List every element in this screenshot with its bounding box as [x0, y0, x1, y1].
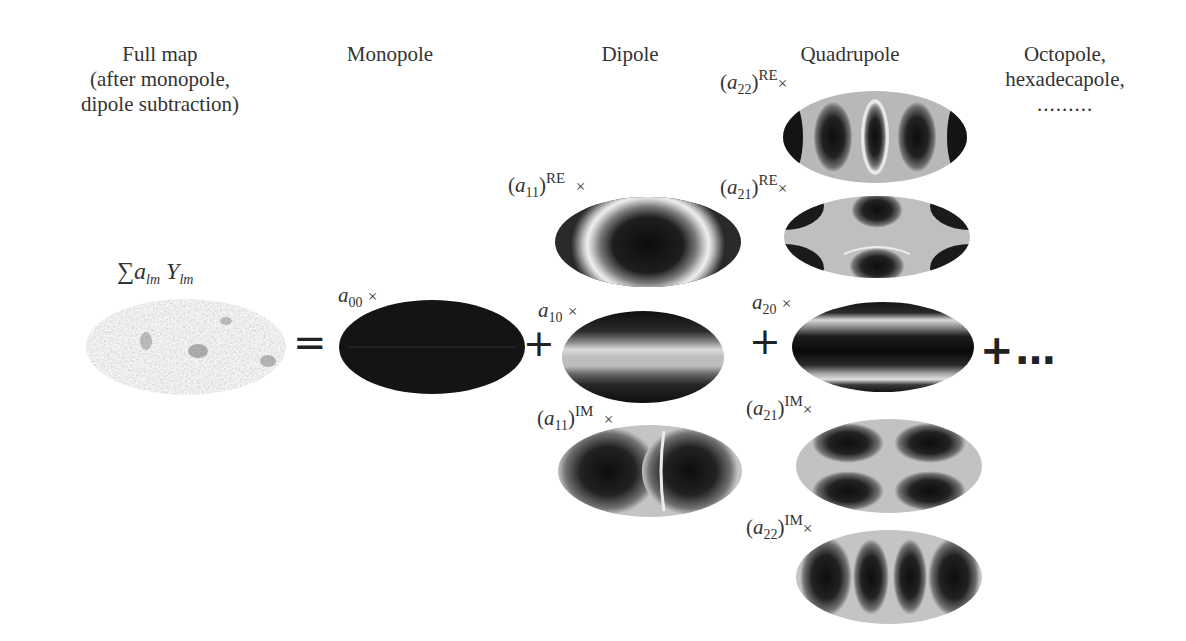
a-symbol: a — [753, 515, 764, 539]
paren: ) — [752, 70, 759, 94]
subscript: 20 — [763, 302, 777, 317]
heading-monopole: Monopole — [320, 42, 460, 67]
superscript: RE — [546, 170, 565, 186]
sum-label: ∑alm Ylm — [117, 258, 193, 288]
heading-line: hexadecapole, — [990, 67, 1140, 92]
heading-higher-multipoles: Octopole, hexadecapole, ......... — [990, 42, 1140, 117]
heading-dipole: Dipole — [570, 42, 690, 67]
subscript: 21 — [764, 408, 778, 423]
subscript: 22 — [738, 82, 752, 97]
paren: ) — [539, 173, 546, 197]
heading-full-map: Full map (after monopole, dipole subtrac… — [60, 42, 260, 117]
quadrupole-a21-im-map — [796, 419, 982, 513]
a-symbol: a — [538, 298, 549, 322]
quadrupole-a21-re-map — [784, 196, 970, 278]
subscript: lm — [179, 272, 193, 287]
paren: ( — [537, 406, 544, 430]
paren: ( — [746, 515, 753, 539]
subscript: 22 — [764, 527, 778, 542]
Y-symbol: Y — [166, 258, 179, 284]
dipole-a11-re-map — [555, 197, 741, 287]
plus-ellipsis: +… — [980, 330, 1058, 370]
times-sign: × — [576, 177, 586, 196]
heading-ellipsis: ......... — [990, 92, 1140, 117]
dipole-a11-im-map — [558, 425, 742, 517]
a-symbol: a — [134, 258, 146, 284]
subscript: 21 — [738, 187, 752, 202]
a-symbol: a — [727, 175, 738, 199]
paren: ( — [508, 173, 515, 197]
a-symbol: a — [752, 290, 763, 314]
plus-sign: + — [523, 324, 555, 362]
paren: ) — [752, 175, 759, 199]
a-symbol: a — [515, 173, 526, 197]
superscript: IM — [575, 403, 593, 419]
heading-line: dipole subtraction) — [60, 92, 260, 117]
subscript: 10 — [549, 310, 563, 325]
coef-a20: a20 × — [752, 290, 791, 318]
superscript: IM — [785, 512, 803, 528]
paren: ) — [778, 396, 785, 420]
plus-sign: + — [749, 322, 781, 360]
monopole-map — [339, 300, 525, 394]
a-symbol: a — [727, 70, 738, 94]
equals-sign: = — [293, 322, 327, 362]
paren: ( — [746, 396, 753, 420]
coef-a22-re: (a22)RE× — [720, 67, 787, 98]
sigma-symbol: ∑ — [117, 258, 134, 284]
a-symbol: a — [753, 396, 764, 420]
heading-line: Octopole, — [990, 42, 1140, 67]
a-symbol: a — [544, 406, 555, 430]
heading-quadrupole: Quadrupole — [775, 42, 925, 67]
full-cmb-map — [86, 299, 286, 395]
quadrupole-a20-map — [792, 302, 974, 392]
quadrupole-a22-re-map — [783, 91, 967, 183]
subscript: 11 — [526, 185, 539, 200]
quadrupole-a22-im-map — [796, 530, 982, 624]
superscript: IM — [785, 393, 803, 409]
subscript: lm — [146, 272, 160, 287]
superscript: RE — [759, 67, 778, 83]
times-sign: × — [782, 294, 792, 313]
paren: ( — [720, 70, 727, 94]
superscript: RE — [759, 172, 778, 188]
paren: ( — [720, 175, 727, 199]
paren: ) — [778, 515, 785, 539]
heading-line: Full map — [60, 42, 260, 67]
coef-a21-re: (a21)RE× — [720, 172, 787, 203]
dipole-a10-map — [562, 311, 724, 403]
times-sign: × — [803, 400, 813, 419]
heading-line: (after monopole, — [60, 67, 260, 92]
